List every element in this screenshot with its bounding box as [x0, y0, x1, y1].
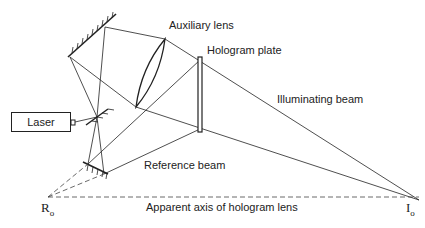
r-letter: R [41, 200, 50, 215]
r-point-label: Ro [41, 200, 54, 218]
i-subscript: o [410, 208, 415, 218]
i-point-label: Io [406, 200, 415, 218]
reference-beam-label: Reference beam [144, 159, 225, 171]
illuminating-beam-label: Illuminating beam [277, 93, 363, 105]
laser-box: Laser [11, 112, 71, 132]
hologram-lens-diagram: Laser Auxiliary lens Hologram plate Illu… [0, 0, 425, 228]
hologram-plate-icon [198, 57, 202, 132]
auxiliary-lens-label: Auxiliary lens [169, 19, 234, 31]
upper-mirror-icon [68, 12, 116, 57]
beam-splitter-icon [86, 109, 114, 125]
r-subscript: o [50, 208, 55, 218]
apparent-axis-label: Apparent axis of hologram lens [146, 201, 298, 213]
hologram-plate-label: Hologram plate [207, 44, 282, 56]
